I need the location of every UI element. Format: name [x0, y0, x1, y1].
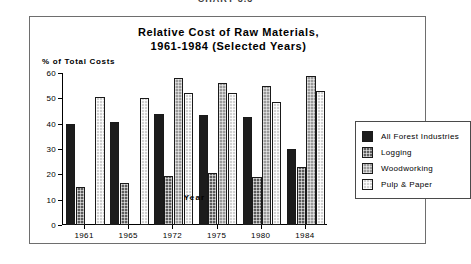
bar [174, 78, 183, 225]
legend-swatch-icon [362, 131, 373, 142]
y-axis-line [62, 73, 63, 225]
bar-group [287, 73, 331, 225]
bar [120, 183, 129, 225]
bar-group [66, 73, 110, 225]
y-tick [58, 149, 62, 150]
y-tick [58, 174, 62, 175]
bar-group [243, 73, 287, 225]
x-tick-label: 1975 [207, 231, 226, 240]
x-tick-label: 1961 [74, 231, 93, 240]
legend-swatch-icon [362, 147, 373, 158]
bar [272, 102, 281, 225]
bar [95, 97, 104, 225]
legend-item[interactable]: Logging [362, 144, 465, 160]
x-tick-label: 1984 [295, 231, 314, 240]
bar [228, 93, 237, 225]
y-tick-label: 0 [51, 221, 56, 230]
bar [66, 124, 75, 225]
bar [243, 117, 252, 225]
y-tick [58, 73, 62, 74]
bar [154, 114, 163, 225]
y-tick-label: 10 [47, 195, 57, 204]
chart-legend: All Forest IndustriesLoggingWoodworkingP… [355, 121, 471, 199]
legend-item[interactable]: All Forest Industries [362, 128, 465, 144]
bar-group [199, 73, 243, 225]
y-tick-label: 40 [47, 119, 57, 128]
legend-label: Logging [381, 148, 412, 157]
bar [140, 98, 149, 225]
bar [110, 122, 119, 225]
bar [184, 93, 193, 225]
bar [316, 91, 325, 225]
chart-caption: CHART 3.3 [0, 0, 451, 2]
y-tick [58, 225, 62, 226]
legend-label: Pulp & Paper [381, 180, 432, 189]
chart-title-line-2: 1961-1984 (Selected Years) [30, 39, 427, 53]
bar [199, 115, 208, 225]
y-axis-label: % of Total Costs [42, 57, 115, 66]
bar [287, 149, 296, 225]
y-tick [58, 124, 62, 125]
chart-title: Relative Cost of Raw Materials, 1961-198… [30, 25, 427, 53]
y-tick-label: 60 [47, 69, 57, 78]
chart-title-line-1: Relative Cost of Raw Materials, [30, 25, 427, 39]
legend-swatch-icon [362, 179, 373, 190]
bar [218, 83, 227, 225]
bar [306, 76, 315, 225]
legend-swatch-icon [362, 163, 373, 174]
bar-group [110, 73, 154, 225]
y-tick-label: 20 [47, 170, 57, 179]
legend-item[interactable]: Woodworking [362, 160, 465, 176]
legend-label: Woodworking [381, 164, 433, 173]
bar-group [154, 73, 198, 225]
legend-item[interactable]: Pulp & Paper [362, 176, 465, 192]
x-axis-label: Year [62, 193, 327, 202]
x-tick-label: 1972 [163, 231, 182, 240]
x-tick-label: 1965 [119, 231, 138, 240]
x-tick-label: 1980 [251, 231, 270, 240]
y-tick [58, 98, 62, 99]
y-tick-label: 50 [47, 94, 57, 103]
plot-area: 0102030405060 196119651972197519801984 [62, 73, 327, 225]
y-tick-label: 30 [47, 145, 57, 154]
legend-label: All Forest Industries [381, 132, 459, 141]
chart-frame: Relative Cost of Raw Materials, 1961-198… [29, 16, 426, 244]
bar [262, 86, 271, 225]
